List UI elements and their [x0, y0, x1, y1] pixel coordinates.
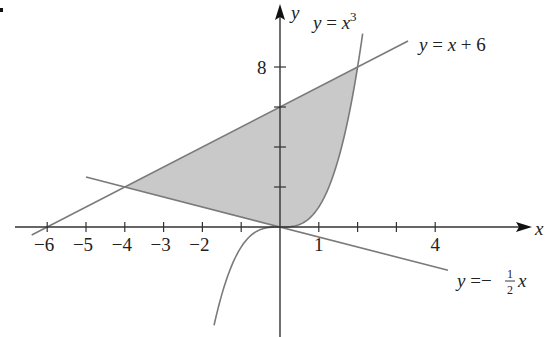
label-cubic: y = x3	[311, 9, 357, 33]
svg-text:2: 2	[507, 283, 513, 297]
y-axis-label: y	[289, 2, 300, 23]
corner-mark	[0, 8, 3, 12]
x-tick-label: −6	[34, 234, 54, 255]
label-line-neg-half-x: y =− 1 2 x	[455, 267, 527, 297]
svg-text:x: x	[517, 270, 527, 291]
label-line-x-plus-6: y = x + 6	[417, 34, 486, 55]
x-tick-label: −3	[150, 234, 170, 255]
x-axis-label: x	[534, 218, 544, 239]
shaded-region	[125, 67, 358, 227]
svg-text:1: 1	[507, 267, 513, 281]
x-tick-label: −4	[112, 234, 133, 255]
x-tick-label: −5	[73, 234, 93, 255]
y-tick-label-8: 8	[257, 57, 267, 78]
region-between-curves-figure: −6−5−4−3−214 x y 8 y = x3 y = x + 6 y =−…	[0, 0, 553, 337]
x-tick-label: 4	[430, 234, 440, 255]
x-tick-label: −2	[189, 234, 209, 255]
x-tick-label: 1	[314, 234, 324, 255]
svg-text:y =−: y =−	[455, 270, 492, 291]
graph-svg: −6−5−4−3−214 x y 8 y = x3 y = x + 6 y =−…	[0, 0, 553, 337]
